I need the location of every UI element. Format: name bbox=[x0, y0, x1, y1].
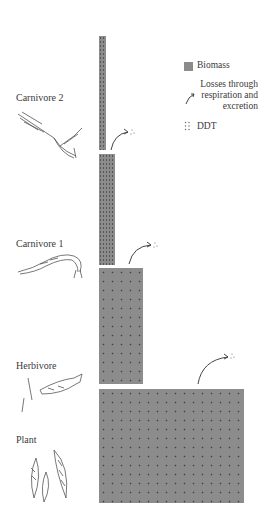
biomass-swatch bbox=[184, 62, 193, 71]
level-label-plant: Plant bbox=[16, 434, 37, 445]
carnivore2-biomass-bar bbox=[99, 36, 106, 150]
herbivore-biomass-bar bbox=[99, 268, 143, 384]
fish-icon bbox=[14, 250, 84, 280]
loss-arrow-icon bbox=[184, 92, 196, 106]
carnivore2-loss-arrow-icon bbox=[108, 126, 138, 152]
carnivore1-biomass-bar bbox=[99, 154, 115, 265]
carnivore1-loss-arrow-icon bbox=[127, 238, 161, 266]
herbivore-loss-arrow-icon bbox=[194, 346, 240, 386]
legend-biomass: Biomass bbox=[197, 60, 230, 71]
small-fish-icon bbox=[18, 370, 90, 416]
plant-biomass-bar bbox=[99, 389, 244, 503]
legend-losses: Losses through respiration and excretion bbox=[196, 79, 258, 112]
level-label-carnivore1: Carnivore 1 bbox=[16, 238, 64, 249]
bird-icon bbox=[14, 108, 84, 160]
legend-ddt: DDT bbox=[197, 121, 217, 132]
plant-icon bbox=[22, 446, 82, 502]
ddt-dots-icon bbox=[184, 121, 194, 131]
level-label-carnivore2: Carnivore 2 bbox=[16, 92, 64, 103]
